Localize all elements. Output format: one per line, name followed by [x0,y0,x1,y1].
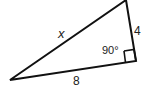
short-leg-label: 4 [134,24,141,38]
triangle [10,0,136,80]
hypotenuse-label: x [57,26,65,41]
long-leg-label: 8 [73,74,80,88]
right-angle-label: 90° [102,44,119,56]
right-triangle-diagram: x 4 8 90° [0,0,147,94]
right-angle-marker-inner [124,51,126,63]
